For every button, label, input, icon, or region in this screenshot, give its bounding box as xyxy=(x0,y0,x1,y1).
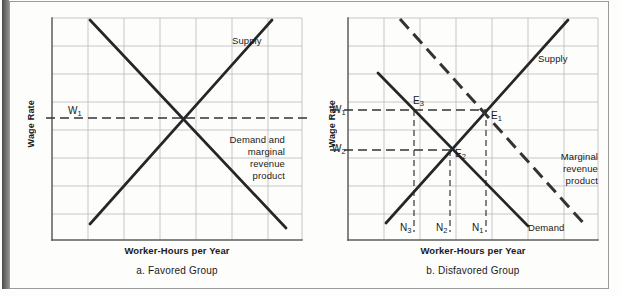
panel-b-marginal-revenue-product-label: Marginal revenue product xyxy=(520,151,598,187)
panel-a-supply-label: Supply xyxy=(232,35,262,46)
mrp-line-3: product xyxy=(566,175,598,186)
panel-b-equilibrium-label-e2: E2 xyxy=(455,148,466,161)
panel-b-x-tick-n2: N2 xyxy=(436,222,447,235)
panel-a-x-axis-title: Worker-Hours per Year xyxy=(52,245,302,256)
demand-mrp-line-2: marginal xyxy=(248,146,285,157)
panel-a-demand-mrp-label: Demand and marginal revenue product xyxy=(165,134,285,182)
demand-mrp-line-1: Demand and xyxy=(230,134,285,145)
panel-favored-group: Wage Rate W1 xyxy=(0,0,310,296)
panel-b-x-tick-n1: N1 xyxy=(472,222,483,235)
panel-a-caption: a. Favored Group xyxy=(52,265,302,276)
panel-b-equilibrium-label-e3: E3 xyxy=(413,95,424,108)
panel-b-caption: b. Disfavored Group xyxy=(348,265,598,276)
panel-b-supply-label: Supply xyxy=(538,53,568,64)
panel-disfavored-group: Wage Rate W1 W2 xyxy=(310,0,620,296)
panel-b-supply-curve xyxy=(386,20,568,223)
mrp-line-2: revenue xyxy=(563,163,598,174)
economics-figure: Wage Rate W1 xyxy=(0,0,620,296)
mrp-line-1: Marginal xyxy=(561,151,598,162)
panel-b-demand-label: Demand xyxy=(528,222,565,233)
demand-mrp-line-4: product xyxy=(253,170,285,181)
panel-a-demand-mrp-curve xyxy=(90,20,286,228)
panel-b-x-axis-title: Worker-Hours per Year xyxy=(348,245,598,256)
demand-mrp-line-3: revenue xyxy=(250,158,285,169)
panel-b-equilibrium-label-e1: E1 xyxy=(491,110,502,123)
panel-b-x-tick-n3: N3 xyxy=(400,222,411,235)
